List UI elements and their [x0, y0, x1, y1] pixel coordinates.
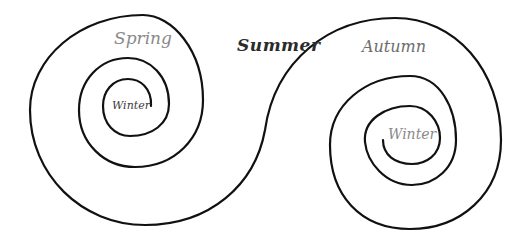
- label-winter-left: Winter: [112, 99, 150, 112]
- label-spring: Spring: [114, 28, 172, 48]
- label-summer: Summer: [237, 35, 320, 55]
- label-autumn: Autumn: [362, 37, 426, 56]
- seasons-spiral-diagram: Spring Summer Autumn Winter Winter: [0, 0, 529, 246]
- label-winter-right: Winter: [388, 126, 436, 142]
